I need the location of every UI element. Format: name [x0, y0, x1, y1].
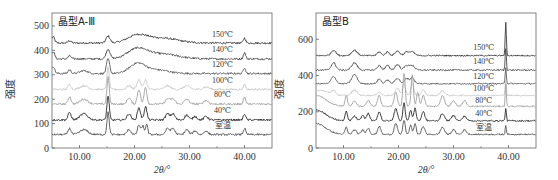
y-tick-label: 400 [298, 70, 313, 81]
x-tick-label: 10.00 [68, 151, 91, 162]
series-label-4: 100℃ [212, 76, 233, 85]
y-axis-label: 强度 [273, 79, 285, 99]
y-tick-label: 0 [308, 143, 313, 154]
series-label-6: 40℃ [214, 106, 231, 115]
series-line-2 [52, 47, 272, 60]
series-label-5: 80℃ [475, 96, 492, 105]
x-tick-label: 20.00 [387, 151, 410, 162]
y-tick-label: 600 [298, 34, 313, 45]
x-tick-label: 30.00 [178, 151, 201, 162]
x-tick-label: 40.00 [233, 151, 256, 162]
y-tick-label: 0 [44, 143, 49, 154]
series-label-2: 140℃ [473, 57, 494, 66]
series-line-6 [52, 96, 272, 121]
series-label-7: 室温 [215, 120, 231, 130]
series-label-5: 80℃ [214, 90, 231, 99]
panel-title: 晶型A-Ⅲ [58, 15, 95, 27]
series-label-6: 40℃ [475, 109, 492, 118]
x-tick-label: 20.00 [123, 151, 146, 162]
y-tick-label: 300 [34, 69, 49, 80]
series-line-2 [316, 49, 536, 71]
series-line-7 [52, 112, 272, 136]
plot-frame [316, 13, 536, 148]
series-line-3 [52, 59, 272, 75]
plot-frame [52, 13, 272, 148]
series-label-4: 100℃ [473, 84, 494, 93]
y-axis-label: 强度 [4, 79, 16, 99]
series-line-1 [52, 34, 272, 44]
x-tick-label: 10.00 [332, 151, 355, 162]
y-tick-label: 400 [34, 45, 49, 56]
y-tick-label: 100 [34, 118, 49, 129]
series-line-5 [316, 74, 536, 107]
series-label-2: 140℃ [212, 45, 233, 54]
x-axis-label: 2θ/° [154, 164, 171, 175]
xrd-figure: 150℃140℃120℃100℃80℃40℃室温10.0020.0030.004… [0, 0, 558, 180]
chart-panel-2: 150℃140℃120℃100℃80℃40℃室温10.0020.0030.004… [273, 13, 536, 175]
series-label-7: 室温 [476, 122, 492, 132]
series-line-5 [52, 77, 272, 105]
y-tick-label: 200 [298, 106, 313, 117]
panel-title: 晶型B [322, 15, 349, 27]
chart-panel-1: 150℃140℃120℃100℃80℃40℃室温10.0020.0030.004… [4, 13, 272, 175]
x-tick-label: 30.00 [442, 151, 465, 162]
series-line-7 [316, 120, 536, 135]
y-tick-label: 200 [34, 94, 49, 105]
y-tick-label: 500 [34, 20, 49, 31]
series-label-3: 120℃ [212, 60, 233, 69]
x-axis-label: 2θ/° [418, 164, 435, 175]
series-label-3: 120℃ [473, 72, 494, 81]
series-line-1 [316, 22, 536, 56]
series-label-1: 150℃ [212, 30, 233, 39]
series-label-1: 150℃ [473, 43, 494, 52]
x-tick-label: 40.00 [497, 151, 520, 162]
